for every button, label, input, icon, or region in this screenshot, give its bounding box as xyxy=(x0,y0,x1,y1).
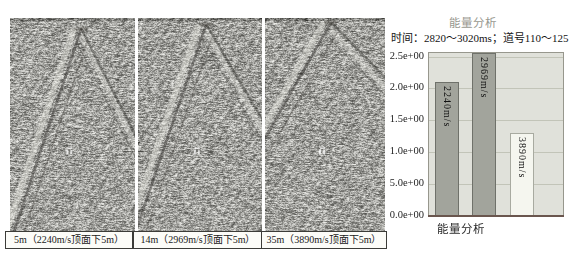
bar-2969m/s: 2969m/s xyxy=(472,53,496,216)
seismic-image-2 xyxy=(138,18,262,232)
y-tick-label: 2.0e+00 xyxy=(384,81,424,92)
seismic-panel-1 xyxy=(10,18,135,232)
panel-caption-2: 14m（2969m/s顶面下5m） xyxy=(133,231,263,249)
y-tick-label: 1.5e+00 xyxy=(384,113,424,124)
energy-plot: 2240m/s2969m/s3890m/s xyxy=(428,52,564,217)
y-tick-label: 1.0e+00 xyxy=(384,145,424,156)
chart-title: 能量分析 xyxy=(440,14,506,30)
y-tick-label: 0.0e+00 xyxy=(384,209,424,220)
y-tick-label: 5.0e+00 xyxy=(384,177,424,188)
seismic-panel-2 xyxy=(138,18,262,232)
chart-subtitle: 时间：2820～3020ms；道号110～125 xyxy=(391,29,571,45)
bar-2240m/s: 2240m/s xyxy=(435,82,459,216)
panel-caption-1: 5m（2240m/s顶面下5m） xyxy=(5,231,133,249)
bar-value-label: 3890m/s xyxy=(517,137,528,215)
bar-3890m/s: 3890m/s xyxy=(510,133,534,216)
chart-x-axis-label: 能量分析 xyxy=(429,220,493,236)
y-tick-label: 2.5e+00 xyxy=(384,50,424,61)
seismic-image-3 xyxy=(265,18,385,232)
seismic-image-1 xyxy=(10,18,135,232)
gridline xyxy=(429,57,563,58)
bar-value-label: 2240m/s xyxy=(442,86,453,215)
seismic-panel-3 xyxy=(265,18,385,232)
panel-caption-3: 35m（3890m/s顶面下5m） xyxy=(261,231,387,249)
x-axis-line xyxy=(428,215,564,217)
seismic-energy-figure: 5m（2240m/s顶面下5m） 14m（2969m/s顶面下5m） 35m（3… xyxy=(0,0,571,266)
bar-value-label: 2969m/s xyxy=(479,57,490,215)
